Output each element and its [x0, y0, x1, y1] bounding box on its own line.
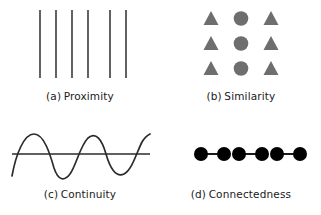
- dot-shape: [255, 147, 269, 161]
- connectedness-illustration: [161, 108, 321, 196]
- dot-shape: [217, 147, 231, 161]
- sine-wave-path: [12, 134, 150, 179]
- panel-similarity: (b)Similarity: [161, 0, 321, 107]
- caption-connectedness: (d)Connectedness: [161, 188, 321, 200]
- triangle-shape: [264, 36, 279, 50]
- triangle-shape: [264, 11, 279, 25]
- circle-shape: [234, 36, 249, 51]
- panel-continuity: (c)Continuity: [0, 108, 160, 215]
- caption-tag: (d): [191, 188, 206, 200]
- dot-shape: [194, 147, 208, 161]
- triangle-shape: [204, 11, 219, 25]
- triangle-shape: [204, 61, 219, 75]
- circle-shape: [234, 11, 249, 26]
- continuity-illustration: [0, 108, 160, 196]
- caption-label: Connectedness: [209, 188, 292, 200]
- caption-tag: (a): [46, 90, 61, 102]
- proximity-illustration: [0, 0, 160, 88]
- circle-shape: [234, 61, 249, 76]
- caption-tag: (c): [44, 188, 58, 200]
- caption-continuity: (c)Continuity: [0, 188, 160, 200]
- triangle-shape: [204, 36, 219, 50]
- triangle-shape: [264, 61, 279, 75]
- caption-label: Proximity: [64, 90, 114, 102]
- caption-proximity: (a)Proximity: [0, 90, 160, 102]
- caption-tag: (b): [207, 90, 222, 102]
- vertical-lines-group: [40, 10, 126, 78]
- similarity-illustration: [161, 0, 321, 88]
- caption-similarity: (b)Similarity: [161, 90, 321, 102]
- gestalt-principles-figure: (a)Proximity: [0, 0, 321, 215]
- dot-shape: [270, 147, 284, 161]
- panel-connectedness: (d)Connectedness: [161, 108, 321, 215]
- dot-shape: [232, 147, 246, 161]
- shape-grid-group: [204, 11, 279, 76]
- caption-label: Continuity: [61, 188, 117, 200]
- caption-label: Similarity: [224, 90, 275, 102]
- dot-shape: [293, 147, 307, 161]
- panel-proximity: (a)Proximity: [0, 0, 160, 107]
